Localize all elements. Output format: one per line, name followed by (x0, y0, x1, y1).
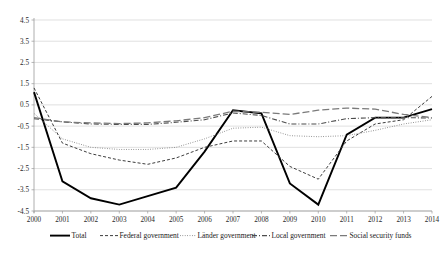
y-axis-tick-labels: 4.53.52.51.50.5-0.5-1.5-2.5-3.5-4.5 (18, 17, 34, 216)
y-tick-label: -2.5 (18, 165, 30, 173)
x-tick-label: 2012 (368, 216, 383, 224)
axes (34, 18, 432, 213)
x-tick-label: 2007 (226, 216, 241, 224)
y-tick-label: -1.5 (18, 144, 30, 152)
gridlines (34, 20, 432, 211)
x-tick-label: 2001 (55, 216, 70, 224)
y-tick-label: 1.5 (20, 80, 29, 88)
legend-label-local-government[interactable]: Local government (272, 231, 327, 240)
y-tick-label: -3.5 (18, 186, 30, 194)
x-tick-label: 2005 (169, 216, 184, 224)
y-tick-label: -0.5 (18, 123, 30, 131)
x-tick-label: 2003 (112, 216, 127, 224)
x-tick-label: 2002 (84, 216, 99, 224)
x-tick-label: 2000 (27, 216, 42, 224)
data-series (34, 88, 432, 205)
y-tick-label: 2.5 (20, 59, 29, 67)
legend-label-total[interactable]: Total (72, 231, 87, 240)
y-tick-label: 4.5 (20, 17, 29, 25)
y-tick-label: 3.5 (20, 38, 29, 46)
x-axis-tick-labels: 2000200120022003200420052006200720082009… (27, 211, 440, 224)
chart-legend: TotalFederal governmentLänder government… (50, 231, 412, 240)
x-tick-label: 2011 (340, 216, 355, 224)
legend-label-l-nder-government[interactable]: Länder government (198, 231, 257, 240)
chart-container: 4.53.52.51.50.5-0.5-1.5-2.5-3.5-4.5 2000… (0, 0, 440, 255)
legend-label-social-security-funds[interactable]: Social security funds (350, 231, 412, 240)
legend-label-federal-government[interactable]: Federal government (120, 231, 180, 240)
x-tick-label: 2009 (283, 216, 298, 224)
y-tick-label: 0.5 (20, 101, 29, 109)
line-chart: 4.53.52.51.50.5-0.5-1.5-2.5-3.5-4.5 2000… (0, 0, 440, 255)
x-tick-label: 2006 (197, 216, 212, 224)
x-tick-label: 2004 (141, 216, 156, 224)
y-tick-label: -4.5 (18, 208, 30, 216)
series-line-federal-government (34, 88, 432, 179)
x-tick-label: 2010 (311, 216, 326, 224)
x-tick-label: 2008 (254, 216, 269, 224)
x-tick-label: 2013 (396, 216, 411, 224)
x-tick-label: 2014 (425, 216, 440, 224)
